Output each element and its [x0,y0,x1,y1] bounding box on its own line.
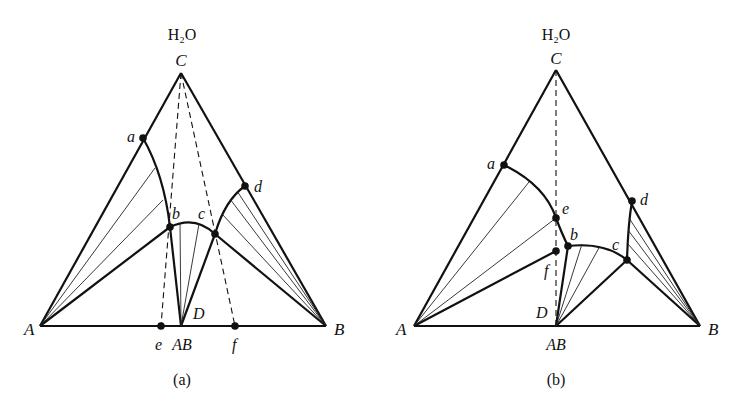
panel-b: H₂O C A B a e b f c d D AB (b) [395,26,719,389]
label-point-f: f [232,336,239,354]
panel-a: H₂O C A B a b c d D e f AB (a) [23,26,345,389]
label-point-b: b [172,205,180,222]
curve-a-e-b [504,165,568,246]
tie-line [628,230,700,326]
curve-a-b [143,138,170,227]
label-vertex-b: B [708,320,719,339]
line-a-b [40,227,170,326]
tie-line [628,244,700,326]
label-point-c: c [612,236,619,253]
tie-line [414,182,529,326]
point-d [628,197,636,205]
label-h2o: H₂O [168,26,197,43]
caption-b: (b) [547,371,566,389]
label-point-e: e [562,200,569,217]
label-point-d: d [254,178,263,195]
label-point-c: c [198,205,205,222]
curve-c-d [627,201,632,260]
point-c [623,256,631,264]
point-a [500,161,508,169]
label-vertex-c: C [175,51,187,70]
label-point-D: D [192,305,205,322]
tie-line [222,214,326,326]
point-e [157,322,165,330]
curve-b-c [170,222,215,234]
label-vertex-c: C [550,49,562,68]
tie-line [237,191,326,326]
point-d [241,182,249,190]
caption-a: (a) [173,371,191,389]
label-vertex-b: B [334,320,345,339]
label-point-D: D [535,304,548,321]
point-a [139,134,147,142]
label-compound-ab: AB [545,336,566,353]
label-vertex-a: A [23,320,35,339]
dashed-line-c-f [181,73,235,326]
phase-diagrams: H₂O C A B a b c d D e f AB (a) [0,0,741,405]
label-point-a: a [487,155,495,172]
label-point-a: a [127,128,135,145]
point-b [564,242,572,250]
label-vertex-a: A [395,320,407,339]
label-point-f: f [544,262,551,280]
tie-line [414,218,556,326]
tie-line [40,200,163,326]
curve-c-d [215,186,245,234]
edge-ac [40,73,181,326]
point-e [552,214,560,222]
point-b [166,223,174,231]
label-point-b: b [570,226,578,243]
tie-line [40,168,155,326]
line-d-b [170,227,181,326]
label-point-e: e [155,336,162,353]
point-c [211,230,219,238]
label-point-d: d [640,191,649,208]
label-compound-ab: AB [171,336,192,353]
dashed-line-c-e [161,73,181,326]
label-h2o: H₂O [542,26,571,43]
point-f [552,247,560,255]
tie-line [230,199,326,326]
line-d-b [556,246,568,326]
edge-cb [181,73,326,326]
point-f [231,322,239,330]
